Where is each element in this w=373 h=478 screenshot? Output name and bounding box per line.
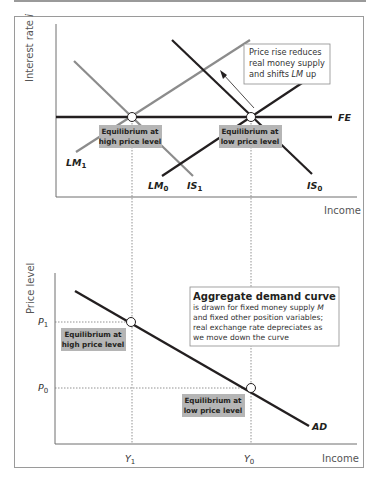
- eq-low-label-line2: low price level: [221, 137, 280, 146]
- ad-legend-line2: and fixed other position variables;: [193, 313, 323, 322]
- is0-label: IS0: [307, 180, 322, 193]
- eq-high-label-line2: high price level: [99, 137, 162, 146]
- annotation-line3: and shifts LM up: [249, 69, 316, 79]
- eq-point-high: [128, 113, 137, 122]
- ad-eq-point-low: [247, 384, 256, 393]
- p0-tick-label: P0: [38, 382, 48, 395]
- bottom-x-axis-label: Income: [322, 453, 359, 464]
- y1-tick-label: Y1: [125, 453, 135, 466]
- top-x-axis-label: Income: [324, 205, 361, 216]
- ad-legend-line4: we move down the curve: [193, 333, 289, 342]
- ad-legend-line3: real exchange rate depreciates as: [193, 323, 322, 332]
- bottom-y-axis-label: Price level: [25, 263, 36, 314]
- eq-point-low: [247, 113, 256, 122]
- ad-eq-low-line2: low price level: [184, 406, 243, 415]
- ad-eq-high-line2: high price level: [62, 340, 125, 349]
- ad-eq-high-line1: Equilibrium at: [64, 330, 122, 339]
- annotation-line1: Price rise reduces: [249, 47, 322, 57]
- top-panel: Interest rate i Income Price rise reduce…: [24, 14, 361, 444]
- is-lm-ad-diagram: Interest rate i Income Price rise reduce…: [0, 0, 373, 478]
- eq-high-label-line1: Equilibrium at: [101, 127, 159, 136]
- ad-eq-point-high: [127, 318, 136, 327]
- ad-eq-low-line1: Equilibrium at: [184, 396, 242, 405]
- lm0-label: LM0: [148, 180, 169, 193]
- annotation-line2: real money supply: [249, 58, 325, 68]
- fe-label: FE: [338, 112, 351, 123]
- bottom-panel: Price level Income P1 P0 Y1 Y0 AD Equili…: [25, 263, 359, 466]
- p1-tick-label: P1: [38, 316, 48, 329]
- ad-legend-line1: is drawn for fixed money supply M: [193, 303, 324, 312]
- y0-tick-label: Y0: [244, 453, 254, 466]
- is1-label: IS1: [187, 180, 202, 193]
- ad-label: AD: [311, 421, 327, 432]
- eq-low-label-line1: Equilibrium at: [221, 127, 279, 136]
- lm1-label: LM1: [66, 157, 87, 170]
- top-y-axis-label: Interest rate i: [24, 14, 35, 82]
- ad-legend-title: Aggregate demand curve: [193, 291, 336, 302]
